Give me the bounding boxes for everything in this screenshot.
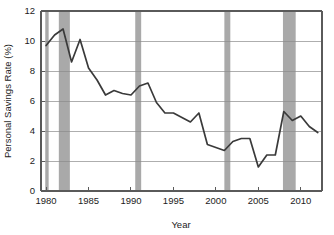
y-tick-label: 10 <box>24 35 35 46</box>
chart-canvas: 1980198519901995200020052010 024681012 Y… <box>0 0 334 235</box>
x-axis-tick-labels: 1980198519901995200020052010 <box>36 195 312 206</box>
x-tick-label: 1995 <box>163 195 184 206</box>
y-tick-label: 12 <box>24 5 35 16</box>
x-tick-label: 1990 <box>120 195 141 206</box>
y-tick-label: 0 <box>30 185 35 196</box>
x-tick-label: 2010 <box>290 195 311 206</box>
x-tick-label: 2005 <box>248 195 269 206</box>
y-tick-label: 2 <box>30 155 35 166</box>
y-tick-label: 6 <box>30 95 35 106</box>
y-tick-label: 4 <box>30 125 35 136</box>
x-tick-label: 1980 <box>36 195 57 206</box>
personal-savings-rate-chart: 1980198519901995200020052010 024681012 Y… <box>0 0 334 235</box>
x-axis-title: Year <box>171 219 190 230</box>
x-tick-label: 2000 <box>205 195 226 206</box>
y-tick-label: 8 <box>30 65 35 76</box>
y-axis-title: Personal Savings Rate (%) <box>2 44 13 158</box>
x-tick-label: 1985 <box>78 195 99 206</box>
y-axis-tick-labels: 024681012 <box>24 5 35 196</box>
